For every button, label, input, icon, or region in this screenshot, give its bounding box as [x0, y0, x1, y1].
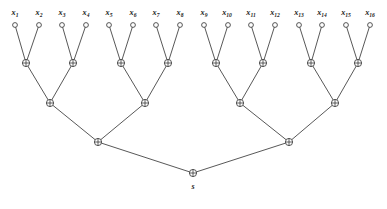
tree-edge — [300, 27, 310, 59]
input-node-x8 — [178, 23, 183, 28]
xor-gate-g2 — [69, 59, 76, 66]
input-node-x4 — [84, 23, 89, 28]
xor-nodes-group — [22, 59, 361, 176]
tree-edge — [218, 66, 238, 100]
leaf-nodes-group — [13, 23, 373, 28]
xor-gate-h3 — [236, 99, 243, 106]
xor-gate-root — [189, 169, 196, 176]
tree-edge — [312, 27, 321, 59]
tree-edge — [205, 27, 215, 59]
tree-edge — [28, 66, 48, 100]
xor-gate-g5 — [212, 59, 219, 66]
input-node-x3 — [60, 23, 65, 28]
input-label-x1: x1 — [11, 8, 19, 18]
input-label-x9: x9 — [200, 8, 208, 18]
tree-edge — [243, 105, 286, 140]
root-output-label: s — [190, 182, 194, 191]
tree-edge — [157, 27, 167, 59]
tree-edge — [252, 27, 262, 59]
input-label-x7: x7 — [152, 8, 160, 18]
input-node-x2 — [37, 23, 42, 28]
input-label-x15: x15 — [340, 8, 351, 18]
input-label-x8: x8 — [176, 8, 184, 18]
tree-edge — [110, 27, 120, 59]
root-output-label-group: s — [190, 182, 194, 191]
xor-gate-g4 — [164, 59, 171, 66]
input-node-x12 — [273, 23, 278, 28]
input-node-x5 — [107, 23, 112, 28]
edges-group — [16, 27, 370, 172]
tree-edge — [217, 27, 227, 59]
input-node-x13 — [297, 23, 302, 28]
tree-edge — [147, 66, 166, 100]
xor-gate-g6 — [259, 59, 266, 66]
tree-edge — [359, 27, 369, 59]
tree-edge — [27, 27, 38, 59]
input-label-x16: x16 — [364, 8, 375, 18]
input-label-x11: x11 — [245, 8, 256, 18]
input-node-x10 — [226, 23, 231, 28]
input-label-x6: x6 — [129, 8, 137, 18]
input-label-x5: x5 — [105, 8, 113, 18]
tree-edge — [242, 66, 261, 100]
tree-canvas: x1x2x3x4x5x6x7x8x9x10x11x12x13x14x15x16 … — [0, 0, 387, 209]
tree-edge — [313, 66, 333, 100]
tree-edge — [122, 27, 132, 59]
tree-edge — [74, 27, 85, 59]
tree-edge — [169, 27, 179, 59]
xor-gate-h1 — [46, 99, 53, 106]
tree-edge — [196, 143, 285, 172]
xor-gate-k1 — [94, 138, 101, 145]
tree-edge — [52, 66, 71, 100]
xor-gate-g1 — [22, 59, 29, 66]
tree-edge — [347, 27, 357, 59]
tree-edge — [53, 105, 95, 139]
tree-edge — [101, 105, 142, 139]
input-node-x6 — [131, 23, 136, 28]
input-node-x16 — [368, 23, 373, 28]
input-label-x10: x10 — [221, 8, 232, 18]
input-node-x14 — [320, 23, 325, 28]
input-node-x15 — [344, 23, 349, 28]
input-node-x7 — [154, 23, 159, 28]
xor-gate-h4 — [331, 99, 338, 106]
tree-edge — [16, 27, 25, 59]
xor-gate-g7 — [307, 59, 314, 66]
tree-edge — [63, 27, 72, 59]
xor-gate-h2 — [141, 99, 148, 106]
tree-edge — [264, 27, 274, 59]
tree-edge — [123, 66, 143, 100]
input-node-x1 — [13, 23, 18, 28]
tree-edge — [337, 66, 356, 100]
input-label-x3: x3 — [58, 8, 66, 18]
input-label-x12: x12 — [269, 8, 280, 18]
xor-gate-g8 — [354, 59, 361, 66]
tree-edge — [101, 143, 189, 172]
input-label-x14: x14 — [316, 8, 327, 18]
leaf-labels-group: x1x2x3x4x5x6x7x8x9x10x11x12x13x14x15x16 — [11, 8, 375, 18]
xor-gate-g3 — [117, 59, 124, 66]
input-node-x11 — [249, 23, 254, 28]
input-label-x13: x13 — [293, 8, 304, 18]
tree-edge — [292, 105, 333, 139]
xor-tree-diagram: x1x2x3x4x5x6x7x8x9x10x11x12x13x14x15x16 … — [0, 0, 387, 209]
xor-gate-k2 — [285, 138, 292, 145]
input-label-x2: x2 — [35, 8, 43, 18]
input-node-x9 — [202, 23, 207, 28]
input-label-x4: x4 — [82, 8, 90, 18]
